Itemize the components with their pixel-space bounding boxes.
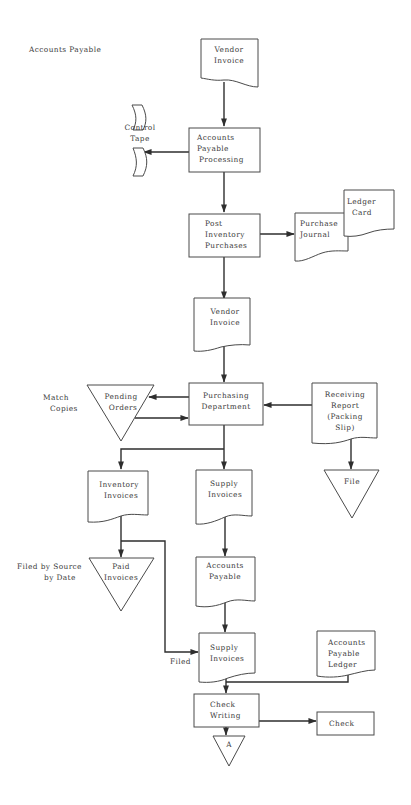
node-label-line: Invoice bbox=[214, 56, 244, 65]
annotation-match-copies: Match bbox=[43, 393, 69, 402]
node-label-line: Slip) bbox=[335, 423, 354, 432]
purchasing-department-box[interactable]: Purchasing Department bbox=[189, 383, 263, 425]
annotation-filed-by-source: by Date bbox=[44, 573, 76, 582]
node-label-line: Paid bbox=[112, 562, 130, 571]
file-storage[interactable]: File bbox=[324, 470, 379, 518]
pending-orders-file[interactable]: Pending Orders bbox=[87, 385, 154, 441]
node-label-line: Ledger bbox=[328, 660, 357, 669]
node-label-line: Supply bbox=[210, 479, 239, 488]
node-label-line: Payable bbox=[197, 144, 229, 153]
node-label-line: Purchasing bbox=[203, 391, 249, 400]
node-label-line: Invoices bbox=[208, 490, 242, 499]
node-label-line: Pending bbox=[104, 392, 137, 401]
node-label-line: Tape bbox=[130, 134, 149, 143]
node-label-line: Check bbox=[329, 719, 355, 728]
node-label-line: Inventory bbox=[205, 230, 245, 239]
check-output-box[interactable]: Check bbox=[317, 712, 374, 735]
node-label-line: Ledger bbox=[347, 197, 376, 206]
accounts-payable-processing-box[interactable]: Accounts Payable Processing bbox=[189, 128, 260, 172]
node-label-line: Vendor bbox=[210, 307, 240, 316]
node-label-line: Journal bbox=[299, 230, 330, 239]
node-label-line: Inventory bbox=[99, 480, 139, 489]
purchase-journal-document[interactable]: Purchase Journal bbox=[295, 213, 348, 261]
supply-invoices-document[interactable]: Supply Invoices bbox=[196, 470, 252, 524]
node-label-line: A bbox=[225, 740, 232, 749]
node-label-line: Invoice bbox=[210, 318, 240, 327]
vendor-invoice-document[interactable]: Vendor Invoice bbox=[201, 39, 258, 87]
node-label-line: Report bbox=[331, 401, 359, 410]
node-label-line: Supply bbox=[210, 643, 239, 652]
node-label-line: Receiving bbox=[325, 390, 365, 399]
paid-invoices-file[interactable]: Paid Invoices bbox=[89, 558, 154, 611]
accounts-payable-flowchart: Accounts Payable bbox=[0, 0, 411, 805]
vendor-invoice-document[interactable]: Vendor Invoice bbox=[194, 298, 250, 351]
ledger-card-document[interactable]: Ledger Card bbox=[344, 190, 394, 236]
accounts-payable-document[interactable]: Accounts Payable bbox=[196, 557, 255, 607]
annotation-filed: Filed bbox=[170, 657, 191, 666]
node-label-line: Check bbox=[210, 700, 236, 709]
node-label-line: Card bbox=[352, 208, 372, 217]
node-label-line: Post bbox=[205, 219, 223, 228]
node-label-line: Purchases bbox=[205, 241, 247, 250]
accounts-payable-ledger-document[interactable]: Accounts Payable Ledger bbox=[317, 631, 375, 677]
annotation-match-copies: Copies bbox=[50, 404, 78, 413]
node-label-line: Invoices bbox=[104, 491, 138, 500]
node-label-line: Purchase bbox=[300, 219, 338, 228]
check-writing-box[interactable]: Check Writing bbox=[194, 694, 259, 727]
off-page-connector-a[interactable]: A bbox=[213, 736, 245, 766]
diagram-title: Accounts Payable bbox=[28, 45, 101, 54]
node-label-line: Vendor bbox=[214, 45, 244, 54]
receiving-report-document[interactable]: Receiving Report (Packing Slip) bbox=[312, 383, 377, 444]
node-label-line: Payable bbox=[328, 649, 360, 658]
node-label-line: Invoices bbox=[104, 573, 138, 582]
node-label-line: Orders bbox=[109, 403, 137, 412]
node-label-line: Writing bbox=[210, 711, 241, 720]
node-label-line: Accounts bbox=[196, 133, 235, 142]
node-label-line: Accounts bbox=[327, 638, 366, 647]
annotation-filed-by-source: Filed by Source bbox=[17, 562, 82, 571]
inventory-invoices-document[interactable]: Inventory Invoices bbox=[88, 471, 148, 522]
node-label-line: Accounts bbox=[205, 561, 244, 570]
node-label-line: Payable bbox=[209, 572, 241, 581]
node-label-line: (Packing bbox=[327, 412, 363, 421]
node-label-line: File bbox=[344, 477, 360, 486]
control-tape-punched-tape[interactable]: Control Tape bbox=[125, 105, 156, 176]
supply-invoices-document[interactable]: Supply Invoices bbox=[199, 633, 255, 682]
node-label-line: Processing bbox=[199, 155, 244, 164]
node-label-line: Department bbox=[201, 402, 250, 411]
post-inventory-purchases-box[interactable]: Post Inventory Purchases bbox=[189, 214, 260, 257]
node-label-line: Invoices bbox=[210, 654, 244, 663]
node-label-line: Control bbox=[125, 123, 156, 132]
edge-purchasing-to-inventory-invoices bbox=[121, 449, 224, 469]
